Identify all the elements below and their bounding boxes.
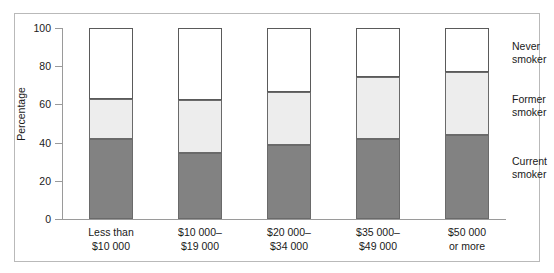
y-tick-label-0: 0 <box>3 214 51 224</box>
bar-segment-former-smoker-4 <box>356 77 400 139</box>
y-tick-label-20: 20 <box>3 176 51 186</box>
bar-segment-current-smoker-4 <box>356 139 400 219</box>
x-axis-line <box>62 219 506 220</box>
bar-segment-never-smoker-3 <box>267 28 311 92</box>
bar-segment-current-smoker-1 <box>89 139 133 219</box>
legend-label-former-line1: Former <box>512 93 554 106</box>
plot-area: Percentage 100 80 60 40 20 0 Less than$1… <box>0 0 554 273</box>
bar-segment-never-smoker-5 <box>445 28 489 72</box>
x-axis-label-5-line2: or more <box>412 240 522 254</box>
y-tick-label-wrap-100: 100 <box>0 23 51 33</box>
legend-label-current-line2: smoker <box>512 168 554 181</box>
y-tick-label-wrap-60: 60 <box>0 99 51 109</box>
y-tick-mark-60 <box>55 104 62 105</box>
y-tick-label-wrap-80: 80 <box>0 61 51 71</box>
legend-label-former-line2: smoker <box>512 106 554 119</box>
y-tick-mark-100 <box>55 28 62 29</box>
y-tick-label-40: 40 <box>3 138 51 148</box>
legend-label-never-line1: Never <box>512 40 554 53</box>
legend-entry-current-smoker: Current smoker <box>512 155 554 181</box>
y-tick-label-100: 100 <box>3 23 51 33</box>
bar-segment-current-smoker-2 <box>178 153 222 219</box>
legend-entry-never-smoker: Never smoker <box>512 40 554 66</box>
y-tick-label-wrap-0: 0 <box>0 214 51 224</box>
stacked-bar-chart-figure: Percentage 100 80 60 40 20 0 Less than$1… <box>0 0 554 273</box>
y-tick-label-wrap-40: 40 <box>0 138 51 148</box>
bar-group-3 <box>267 28 311 219</box>
y-tick-mark-20 <box>55 181 62 182</box>
y-tick-mark-0 <box>55 219 62 220</box>
bar-group-1 <box>89 28 133 219</box>
bar-segment-former-smoker-1 <box>89 99 133 139</box>
legend-label-never-line2: smoker <box>512 53 554 66</box>
bar-segment-current-smoker-3 <box>267 145 311 219</box>
bar-group-4 <box>356 28 400 219</box>
bar-segment-never-smoker-1 <box>89 28 133 99</box>
x-axis-label-5-line1: $50 000 <box>412 226 522 240</box>
bar-segment-never-smoker-4 <box>356 28 400 77</box>
y-axis-line <box>62 28 63 220</box>
bar-segment-current-smoker-5 <box>445 135 489 219</box>
bar-segment-never-smoker-2 <box>178 28 222 100</box>
legend-label-current-line1: Current <box>512 155 554 168</box>
y-tick-label-80: 80 <box>3 61 51 71</box>
legend-entry-former-smoker: Former smoker <box>512 93 554 119</box>
y-tick-mark-80 <box>55 66 62 67</box>
bar-segment-former-smoker-2 <box>178 100 222 153</box>
bar-segment-former-smoker-3 <box>267 92 311 145</box>
y-tick-label-wrap-20: 20 <box>0 176 51 186</box>
x-axis-label-5: $50 000or more <box>412 226 522 253</box>
bar-segment-former-smoker-5 <box>445 72 489 135</box>
bar-group-5 <box>445 28 489 219</box>
y-tick-label-60: 60 <box>3 99 51 109</box>
y-tick-mark-40 <box>55 143 62 144</box>
bar-group-2 <box>178 28 222 219</box>
